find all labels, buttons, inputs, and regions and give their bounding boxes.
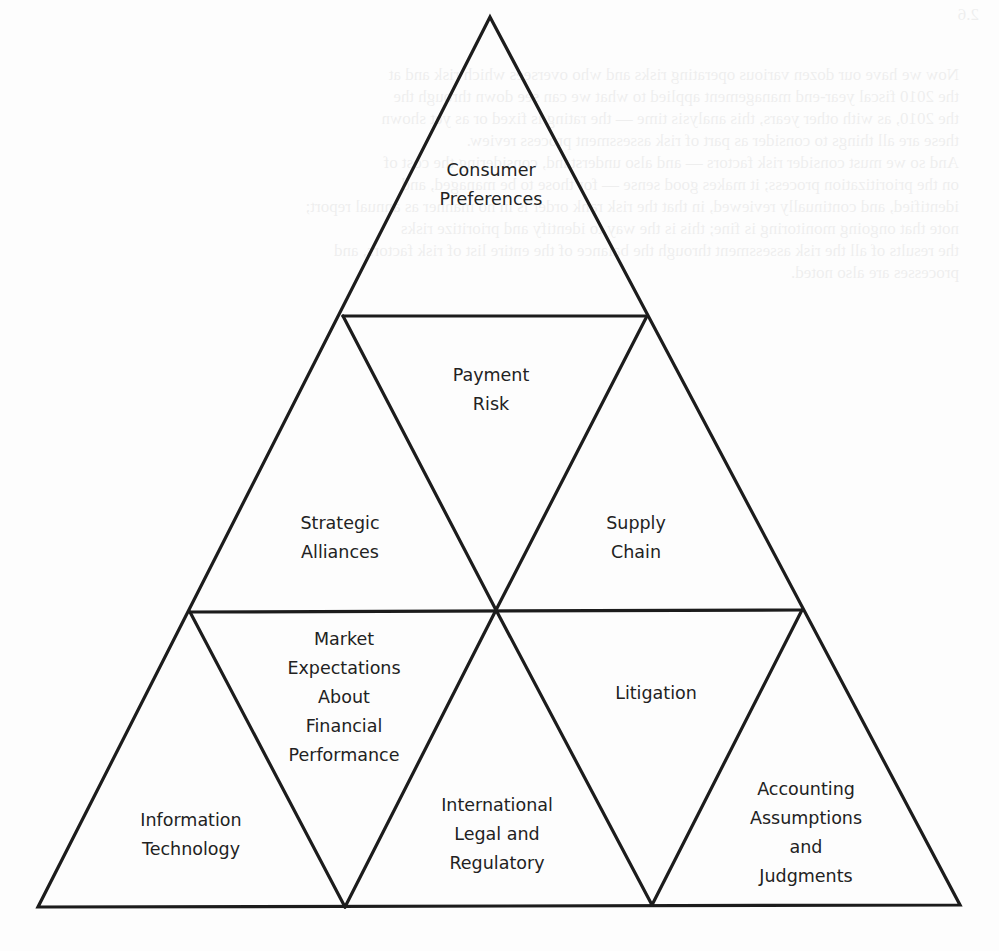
label-line: Alliances [300, 538, 379, 567]
segment-international-legal: International Legal and Regulatory [441, 791, 553, 878]
pyramid-outline [38, 17, 960, 907]
label-line: Chain [606, 538, 666, 567]
label-line: and [750, 833, 862, 862]
label-line: Technology [140, 835, 241, 864]
segment-accounting-assumptions: Accounting Assumptions and Judgments [750, 775, 862, 891]
label-line: Financial [287, 712, 400, 741]
segment-supply-chain: Supply Chain [606, 509, 666, 567]
label-line: Performance [287, 741, 400, 770]
label-line: Strategic [300, 509, 379, 538]
label-line: Preferences [440, 185, 543, 214]
label-line: About [287, 683, 400, 712]
label-line: Regulatory [441, 849, 553, 878]
label-line: Market [287, 625, 400, 654]
segment-payment-risk: Payment Risk [453, 361, 530, 419]
label-line: Judgments [750, 862, 862, 891]
label-line: International [441, 791, 553, 820]
label-line: Supply [606, 509, 666, 538]
segment-information-technology: Information Technology [140, 806, 241, 864]
label-line: Information [140, 806, 241, 835]
label-line: Expectations [287, 654, 400, 683]
label-line: Accounting [750, 775, 862, 804]
label-line: Consumer [440, 156, 543, 185]
segment-litigation: Litigation [615, 679, 697, 708]
page: 2.6 Now we have our dozen various operat… [0, 0, 999, 951]
segment-strategic-alliances: Strategic Alliances [300, 509, 379, 567]
segment-market-expectations: Market Expectations About Financial Perf… [287, 625, 400, 770]
label-line: Assumptions [750, 804, 862, 833]
label-line: Litigation [615, 679, 697, 708]
label-line: Payment [453, 361, 530, 390]
label-line: Risk [453, 390, 530, 419]
segment-consumer-preferences: Consumer Preferences [440, 156, 543, 214]
label-line: Legal and [441, 820, 553, 849]
